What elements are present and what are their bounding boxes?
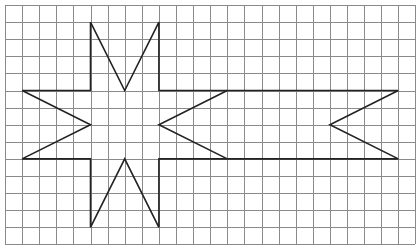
grid-lines (5, 5, 416, 245)
grid-diagram (0, 0, 419, 252)
